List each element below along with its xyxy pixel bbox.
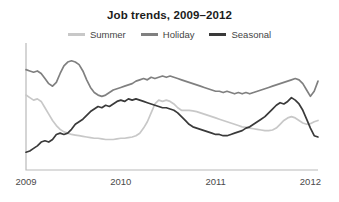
x-tick-2010: 2010 — [110, 176, 131, 187]
x-tick-2009: 2009 — [15, 176, 36, 187]
series-line-seasonal — [26, 98, 318, 153]
chart-container: Job trends, 2009–2012 Summer Holiday Sea… — [0, 0, 339, 202]
x-tick-2011: 2011 — [205, 176, 225, 187]
series-line-summer — [26, 95, 318, 139]
series-line-holiday — [26, 61, 318, 97]
plot-area — [0, 0, 339, 202]
series-lines — [26, 61, 318, 152]
x-tick-2012: 2012 — [300, 176, 321, 187]
